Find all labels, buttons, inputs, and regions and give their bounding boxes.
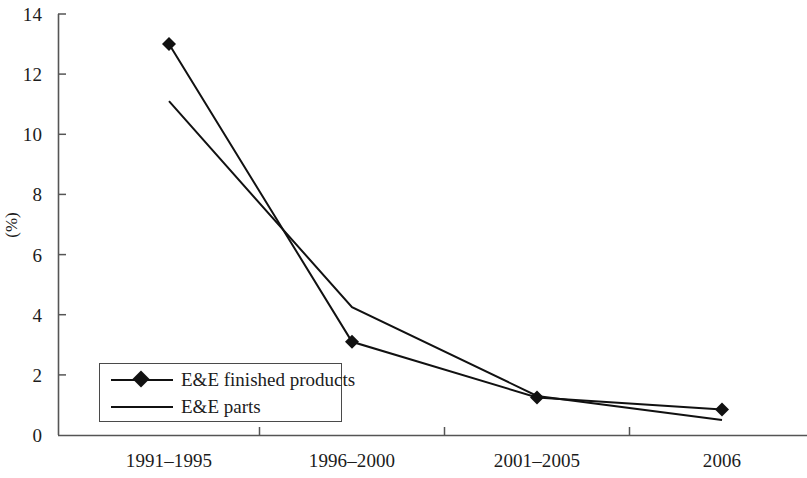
- legend-swatch-parts: [111, 397, 173, 417]
- legend-label-parts: E&E parts: [181, 396, 261, 418]
- chart-legend: E&E finished products E&E parts: [99, 363, 342, 422]
- y-tick-label-0: 0: [2, 425, 42, 447]
- data-point-marker: [715, 402, 729, 416]
- y-tick-label-6: 6: [2, 245, 42, 267]
- diamond-marker-icon: [133, 371, 150, 388]
- legend-item-parts: E&E parts: [100, 393, 341, 421]
- legend-swatch-finished-products: [111, 370, 173, 390]
- y-tick-label-12: 12: [2, 64, 42, 86]
- legend-line-icon: [111, 406, 173, 408]
- y-tick-label-8: 8: [2, 184, 42, 206]
- x-tick-label-2006: 2006: [642, 450, 802, 472]
- data-point-marker: [345, 335, 359, 349]
- y-tick-label-4: 4: [2, 305, 42, 327]
- legend-label-finished-products: E&E finished products: [181, 369, 355, 391]
- y-tick-label-2: 2: [2, 365, 42, 387]
- data-point-marker: [162, 37, 176, 51]
- y-tick-label-10: 10: [2, 124, 42, 146]
- x-tick-label-1996-2000: 1996–2000: [272, 450, 432, 472]
- line-chart: (%) 14 12 10 8 6 4 2 0 1991–1995 1996–20…: [0, 0, 807, 478]
- x-tick-label-1991-1995: 1991–1995: [89, 450, 249, 472]
- legend-item-finished-products: E&E finished products: [100, 366, 341, 394]
- y-tick-label-14: 14: [2, 4, 42, 26]
- series-line: [169, 44, 722, 409]
- series-finished-products: [162, 37, 729, 416]
- x-tick-label-2001-2005: 2001–2005: [457, 450, 617, 472]
- x-axis-ticks: [260, 427, 630, 435]
